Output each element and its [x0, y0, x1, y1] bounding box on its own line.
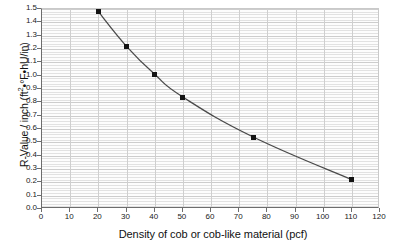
- x-axis-tick-label: 10: [54, 212, 84, 222]
- x-axis-tick-label: 100: [308, 212, 338, 222]
- y-axis-tick-label-group: 0.00.10.20.30.40.50.60.70.80.91.01.11.21…: [16, 8, 37, 208]
- x-axis-tick-label: 40: [139, 212, 169, 222]
- x-axis-tick-label: 50: [167, 212, 197, 222]
- x-axis-tick-label: 120: [364, 212, 394, 222]
- y-axis-tick-label: 0.8: [16, 97, 37, 105]
- y-axis-tick-label: 1.3: [16, 31, 37, 39]
- x-axis-tick-label: 90: [280, 212, 310, 222]
- y-axis-tick-label: 0.3: [16, 164, 37, 172]
- x-axis-tick-label: 0: [26, 212, 56, 222]
- y-axis-tick-label: 0.9: [16, 84, 37, 92]
- y-axis-tick-label: 0.0: [16, 204, 37, 212]
- y-axis-tick-label: 1.1: [16, 57, 37, 65]
- x-axis-tick-label-group: 0102030405060708090100110120: [0, 212, 396, 224]
- data-point-marker: [251, 135, 256, 140]
- y-axis-tick-label: 0.4: [16, 151, 37, 159]
- data-series-layer: [42, 9, 378, 207]
- x-axis-tick-label: 30: [111, 212, 141, 222]
- y-axis-tick-label: 0.2: [16, 177, 37, 185]
- data-point-marker: [152, 72, 157, 77]
- x-axis-tick-label: 110: [336, 212, 366, 222]
- x-axis-tick-label: 20: [82, 212, 112, 222]
- data-point-marker: [124, 44, 129, 49]
- x-axis-tick-label: 60: [195, 212, 225, 222]
- y-axis-tick-label: 1.5: [16, 4, 37, 12]
- y-axis-tick-label: 1.4: [16, 17, 37, 25]
- x-axis-tick-label: 80: [251, 212, 281, 222]
- data-point-marker: [180, 95, 185, 100]
- y-axis-tick-label: 1.2: [16, 44, 37, 52]
- x-axis-tick-label: 70: [223, 212, 253, 222]
- data-point-marker: [96, 9, 101, 14]
- series-line-path: [42, 9, 379, 208]
- plot-area: [41, 8, 379, 208]
- x-axis-title: Density of cob or cob-like material (pcf…: [0, 228, 396, 240]
- y-axis-tick-label: 0.5: [16, 137, 37, 145]
- data-point-marker: [349, 177, 354, 182]
- y-axis-tick-label: 1.0: [16, 71, 37, 79]
- chart-container: R-Value / inch (ft2•°F•hU/in) 0.00.10.20…: [0, 0, 396, 250]
- y-axis-tick-label: 0.6: [16, 124, 37, 132]
- y-axis-tick-label: 0.1: [16, 191, 37, 199]
- y-axis-tick-label: 0.7: [16, 111, 37, 119]
